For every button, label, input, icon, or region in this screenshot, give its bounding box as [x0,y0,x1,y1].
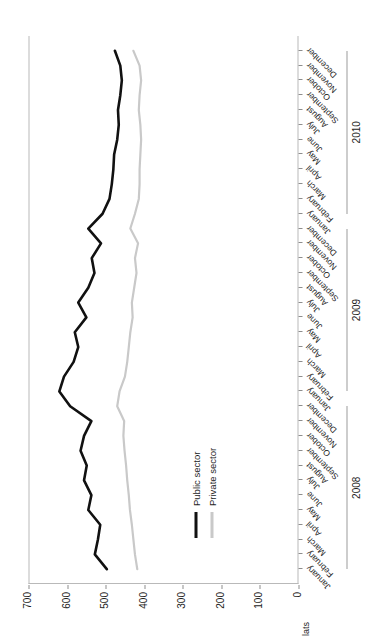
y-tick-mark [298,585,299,589]
public-sector-line [59,51,121,569]
x-tick-mark [298,539,302,540]
x-tick-mark [298,50,302,51]
x-tick-mark [298,553,302,554]
private-sector-line [117,51,141,569]
x-tick-mark [298,302,302,303]
y-tick-label: 0 [291,592,302,622]
y-tick-mark [67,585,68,589]
y-tick-label: 600 [60,592,71,622]
year-group-rule [346,51,347,214]
x-tick-mark [298,198,302,199]
y-tick-label: 100 [252,592,263,622]
x-tick-mark [298,509,302,510]
x-tick-mark [298,390,302,391]
x-tick-mark [298,213,302,214]
axis-unit-label: lats [300,622,310,636]
y-tick-label: 500 [98,592,109,622]
x-tick-mark [298,331,302,332]
legend-label-private: Private sector [206,448,217,506]
x-tick-mark [298,154,302,155]
y-tick-mark [221,585,222,589]
year-group-label: 2010 [350,51,361,214]
legend-item-public-sector: Public sector [190,448,201,538]
x-tick-mark [298,228,302,229]
y-tick-mark [105,585,106,589]
x-tick-mark [298,420,302,421]
x-tick-mark [298,257,302,258]
year-group-label: 2009 [350,229,361,392]
x-tick-mark [298,376,302,377]
x-tick-mark [298,287,302,288]
x-tick-mark [298,405,302,406]
x-tick-mark [298,79,302,80]
year-group-rule [346,229,347,392]
line-chart-figure: 0100200300400500600700 JanuaryFebruaryMa… [0,0,387,642]
x-tick-mark [298,124,302,125]
chart-legend: Public sector Private sector [190,448,222,538]
x-tick-mark [298,94,302,95]
rotated-figure-container: 0100200300400500600700 JanuaryFebruaryMa… [0,0,387,642]
x-tick-mark [298,183,302,184]
year-group-rule [346,406,347,569]
x-tick-mark [298,435,302,436]
year-group-label: 2008 [350,406,361,569]
x-tick-mark [298,479,302,480]
chart-plot-lines [28,36,298,584]
x-tick-mark [298,524,302,525]
x-tick-mark [298,65,302,66]
legend-item-private-sector: Private sector [206,448,217,538]
x-tick-mark [298,272,302,273]
legend-swatch-public-icon [194,512,197,538]
y-tick-mark [182,585,183,589]
x-tick-mark [298,450,302,451]
y-tick-mark [259,585,260,589]
x-tick-mark [298,465,302,466]
x-tick-mark [298,346,302,347]
y-tick-label: 200 [214,592,225,622]
y-tick-mark [144,585,145,589]
y-tick-mark [28,585,29,589]
x-tick-mark [298,168,302,169]
x-tick-mark [298,109,302,110]
x-tick-mark [298,316,302,317]
x-tick-mark [298,242,302,243]
y-tick-label: 400 [137,592,148,622]
x-tick-mark [298,568,302,569]
x-tick-mark [298,361,302,362]
legend-swatch-private-icon [210,512,213,538]
x-tick-mark [298,494,302,495]
legend-label-public: Public sector [190,452,201,506]
x-tick-mark [298,139,302,140]
y-tick-label: 700 [21,592,32,622]
y-tick-label: 300 [175,592,186,622]
